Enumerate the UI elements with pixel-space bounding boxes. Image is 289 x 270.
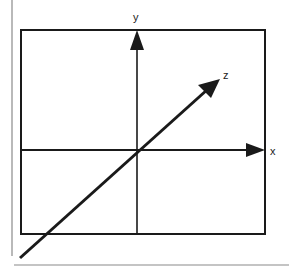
z-axis-label: z [223, 69, 229, 81]
axes-diagram: y z x [0, 0, 289, 270]
x-arrowhead-icon [246, 143, 265, 157]
frame-box [21, 30, 265, 234]
x-axis-label: x [270, 145, 276, 157]
z-axis [20, 89, 208, 258]
y-arrowhead-icon [130, 30, 144, 50]
y-axis-label: y [133, 11, 139, 23]
